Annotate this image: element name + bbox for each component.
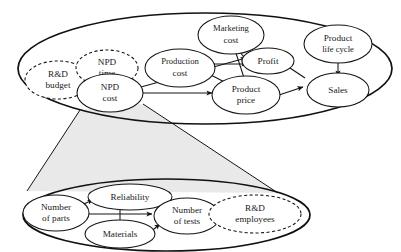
node-product-life-cycle[interactable]: Product life cycle bbox=[304, 25, 372, 63]
npd-cost-label-line1: NPD bbox=[101, 82, 120, 92]
production-cost-label-line2: cost bbox=[173, 68, 188, 78]
number-of-tests-label-line1: Number bbox=[172, 205, 202, 215]
sales-label: Sales bbox=[328, 85, 348, 95]
marketing-cost-label-line1: Marketing bbox=[213, 23, 250, 33]
product-price-label-line2: price bbox=[237, 95, 255, 105]
number-of-parts-label-line1: Number bbox=[41, 202, 71, 212]
product-life-cycle-label-line2: life cycle bbox=[322, 44, 354, 54]
production-cost-label-line1: Production bbox=[161, 56, 199, 66]
number-of-parts-label-line2: of parts bbox=[42, 213, 70, 223]
node-npd-cost[interactable]: NPD cost bbox=[77, 74, 143, 112]
profit-label: Profit bbox=[258, 56, 279, 66]
product-life-cycle-label-line1: Product bbox=[324, 33, 353, 43]
node-product-price[interactable]: Product price bbox=[212, 76, 280, 114]
reliability-label: Reliability bbox=[111, 192, 150, 202]
node-production-cost[interactable]: Production cost bbox=[145, 49, 215, 87]
marketing-cost-label-line2: cost bbox=[224, 35, 239, 45]
node-rd-employees[interactable]: R&D employees bbox=[209, 195, 301, 233]
causal-loop-diagram: R&D budget NPD time NPD cost Production … bbox=[0, 0, 401, 252]
materials-label: Materials bbox=[103, 229, 138, 239]
rd-employees-label-line1: R&D bbox=[245, 203, 265, 213]
npd-cost-label-line2: cost bbox=[103, 93, 118, 103]
node-number-of-parts[interactable]: Number of parts bbox=[23, 195, 89, 231]
node-materials[interactable]: Materials bbox=[85, 220, 155, 248]
product-price-label-line1: Product bbox=[232, 84, 261, 94]
diagram-canvas: R&D budget NPD time NPD cost Production … bbox=[0, 0, 401, 252]
rd-budget-label-line2: budget bbox=[45, 80, 70, 90]
node-marketing-cost[interactable]: Marketing cost bbox=[198, 16, 264, 54]
node-profit[interactable]: Profit bbox=[242, 48, 294, 74]
edge-product-price-to-sales bbox=[279, 87, 303, 95]
rd-budget-label-line1: R&D bbox=[48, 69, 68, 79]
rd-employees-label-line2: employees bbox=[235, 214, 275, 224]
node-sales[interactable]: Sales bbox=[307, 73, 369, 107]
npd-time-label-line1: NPD bbox=[98, 57, 117, 67]
number-of-tests-label-line2: of tests bbox=[174, 216, 201, 226]
